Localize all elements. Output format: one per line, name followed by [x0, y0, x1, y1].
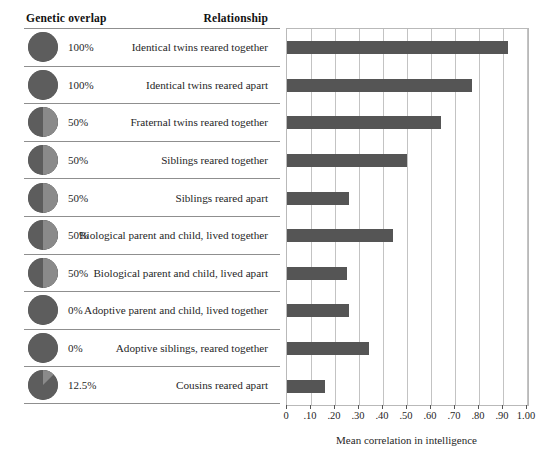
genetic-overlap-pie-icon [28, 295, 58, 325]
axis-tick [310, 405, 311, 409]
bar [287, 267, 347, 280]
genetic-overlap-value: 100% [68, 79, 94, 91]
genetic-overlap-pie-icon [28, 32, 58, 62]
column-header-genetic-overlap: Genetic overlap [26, 12, 107, 24]
bar-row [287, 330, 527, 368]
gridline [527, 29, 528, 405]
relationship-table: 100%Identical twins reared together100%I… [24, 28, 280, 404]
axis-tick [502, 405, 503, 409]
axis-tick-label: .90 [495, 410, 508, 421]
bar [287, 154, 407, 167]
genetic-overlap-value: 100% [68, 41, 94, 53]
table-row: 0%Adoptive parent and child, lived toget… [24, 291, 280, 329]
axis-tick [454, 405, 455, 409]
table-row: 100%Identical twins reared together [24, 28, 280, 66]
genetic-overlap-pie-icon [28, 333, 58, 363]
axis-tick-label: .60 [423, 410, 436, 421]
axis-tick-label: .20 [327, 410, 340, 421]
genetic-overlap-value: 50% [68, 116, 88, 128]
table-row: 50%Biological parent and child, lived ap… [24, 254, 280, 292]
bar-row [287, 67, 527, 105]
table-row: 50%Fraternal twins reared together [24, 103, 280, 141]
axis-tick [358, 405, 359, 409]
bar-row [287, 29, 527, 67]
axis-tick-label: .70 [447, 410, 460, 421]
genetic-overlap-pie-icon [28, 145, 58, 175]
genetic-overlap-intelligence-chart: Genetic overlap Relationship 100%Identic… [0, 0, 557, 471]
bar [287, 380, 325, 393]
bar-row [287, 367, 527, 405]
table-row: 50%Siblings reared together [24, 141, 280, 179]
relationship-label: Siblings reared apart [175, 192, 268, 204]
bar-plot-area [286, 28, 529, 406]
genetic-overlap-value: 0% [68, 304, 83, 316]
table-row: 100%Identical twins reared apart [24, 66, 280, 104]
genetic-overlap-pie-icon [28, 220, 58, 250]
genetic-overlap-value: 50% [68, 154, 88, 166]
bar-row [287, 255, 527, 293]
genetic-overlap-pie-icon [28, 70, 58, 100]
axis-tick-label: .40 [375, 410, 388, 421]
relationship-label: Fraternal twins reared together [130, 116, 268, 128]
axis-tick [406, 405, 407, 409]
relationship-label: Biological parent and child, lived toget… [79, 229, 268, 241]
table-row: 50%Siblings reared apart [24, 178, 280, 216]
axis-tick-label: 1.00 [517, 410, 535, 421]
axis-tick [286, 405, 287, 409]
axis-tick [430, 405, 431, 409]
x-axis-label: Mean correlation in intelligence [286, 434, 527, 446]
axis-tick [526, 405, 527, 409]
table-row: 0%Adoptive siblings, reared together [24, 329, 280, 367]
bar-row [287, 104, 527, 142]
relationship-label: Identical twins reared together [132, 41, 268, 53]
bar [287, 192, 349, 205]
relationship-label: Identical twins reared apart [146, 79, 268, 91]
relationship-label: Siblings reared together [161, 154, 268, 166]
genetic-overlap-value: 50% [68, 192, 88, 204]
axis-tick-label: .50 [399, 410, 412, 421]
relationship-label: Adoptive siblings, reared together [116, 342, 268, 354]
axis-tick-label: 0 [283, 410, 288, 421]
bar-row [287, 179, 527, 217]
bar-row [287, 292, 527, 330]
bar [287, 229, 393, 242]
column-header-relationship: Relationship [140, 12, 268, 24]
axis-tick [478, 405, 479, 409]
bar [287, 304, 349, 317]
genetic-overlap-value: 50% [68, 267, 88, 279]
genetic-overlap-pie-icon [28, 183, 58, 213]
table-row: 12.5%Cousins reared apart [24, 366, 280, 404]
genetic-overlap-value: 0% [68, 342, 83, 354]
relationship-label: Biological parent and child, lived apart [93, 267, 268, 279]
bar-row [287, 217, 527, 255]
axis-tick [334, 405, 335, 409]
x-axis: 0.10.20.30.40.50.60.70.80.901.00 [286, 405, 527, 415]
table-row: 50%Biological parent and child, lived to… [24, 216, 280, 254]
bar [287, 116, 441, 129]
genetic-overlap-pie-icon [28, 107, 58, 137]
genetic-overlap-value: 12.5% [68, 379, 96, 391]
axis-tick-label: .80 [471, 410, 484, 421]
genetic-overlap-pie-icon [28, 258, 58, 288]
bar [287, 79, 472, 92]
genetic-overlap-pie-icon [28, 370, 58, 400]
axis-tick-label: .30 [351, 410, 364, 421]
axis-tick-label: .10 [303, 410, 316, 421]
relationship-label: Adoptive parent and child, lived togethe… [84, 304, 268, 316]
relationship-label: Cousins reared apart [176, 379, 268, 391]
bar-row [287, 142, 527, 180]
bar [287, 41, 508, 54]
axis-tick [382, 405, 383, 409]
bar [287, 342, 369, 355]
